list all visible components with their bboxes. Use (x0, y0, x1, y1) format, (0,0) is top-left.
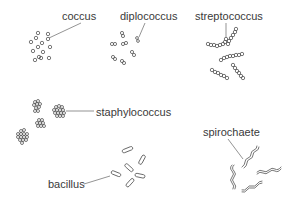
coccus-icon (29, 31, 51, 61)
bacillus-leader (84, 176, 110, 184)
coccus-leader (49, 23, 81, 38)
bacteria-diagram: coccus diplococcus streptococcus staphyl… (0, 0, 291, 206)
streptococcus-icon (206, 27, 244, 79)
staphylococcus-icon (17, 100, 66, 145)
spirochaete-leader (228, 139, 243, 159)
bacteria-illustrations (0, 0, 291, 206)
diplococcus-icon (110, 31, 139, 64)
bacillus-icon (111, 146, 146, 187)
diplococcus-leader (139, 23, 145, 37)
